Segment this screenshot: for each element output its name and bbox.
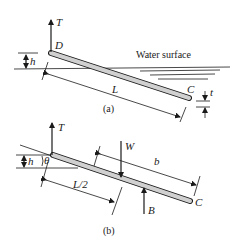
caption-b: (b) (103, 225, 115, 237)
rod-diagram: Water surface T D h L C t (a) (0, 0, 234, 241)
h-label-a: h (30, 55, 36, 67)
caption-a: (a) (103, 103, 114, 115)
end-c-label-b: C (195, 196, 203, 208)
water-ripple-line (150, 74, 215, 75)
part-b: T h θ W B L/2 b C (b) (16, 121, 203, 237)
water-ripple-line (140, 70, 220, 71)
end-c-label-a: C (187, 83, 195, 95)
l-ext-right (180, 107, 186, 122)
tension-label-a: T (56, 16, 63, 28)
buoyancy-label: B (148, 204, 155, 216)
l-ext-left (42, 62, 48, 80)
end-d-label: D (54, 39, 63, 51)
part-a: Water surface T D h L C t (a) (14, 16, 230, 122)
tension-label-b: T (58, 121, 65, 133)
half-length-label: L/2 (72, 178, 88, 190)
l-label: L (111, 83, 118, 95)
theta-arc (42, 156, 43, 166)
h-label-b: h (28, 155, 34, 167)
b-dim-arrow (100, 154, 196, 185)
t-label: t (210, 86, 214, 98)
water-surface-label: Water surface (136, 49, 192, 60)
weight-label: W (125, 140, 135, 152)
b-label: b (154, 155, 160, 167)
